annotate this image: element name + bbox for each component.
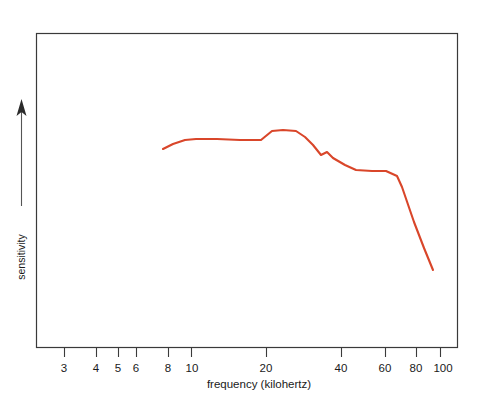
x-tick-label-6: 6 bbox=[133, 362, 139, 374]
x-tick-label-5: 5 bbox=[115, 362, 121, 374]
y-axis-arrow bbox=[17, 99, 27, 206]
x-axis-title: frequency (kilohertz) bbox=[207, 378, 311, 390]
sensitivity-vs-frequency-chart: 3 4 5 6 8 10 20 40 60 80 100 frequency (… bbox=[0, 0, 479, 401]
x-tick-label-4: 4 bbox=[93, 362, 100, 374]
x-axis-ticks bbox=[65, 348, 441, 357]
x-tick-label-60: 60 bbox=[379, 362, 392, 374]
x-tick-label-20: 20 bbox=[260, 362, 273, 374]
x-axis-tick-labels: 3 4 5 6 8 10 20 40 60 80 100 bbox=[61, 362, 453, 374]
x-tick-label-40: 40 bbox=[335, 362, 348, 374]
plot-frame bbox=[37, 34, 458, 348]
x-tick-label-80: 80 bbox=[410, 362, 423, 374]
x-tick-label-3: 3 bbox=[61, 362, 67, 374]
y-axis-title: sensitivity bbox=[15, 233, 27, 279]
figure-container: 3 4 5 6 8 10 20 40 60 80 100 frequency (… bbox=[0, 0, 479, 401]
x-tick-label-10: 10 bbox=[186, 362, 199, 374]
x-tick-label-8: 8 bbox=[165, 362, 171, 374]
x-tick-label-100: 100 bbox=[433, 362, 452, 374]
sensitivity-curve bbox=[163, 130, 433, 270]
